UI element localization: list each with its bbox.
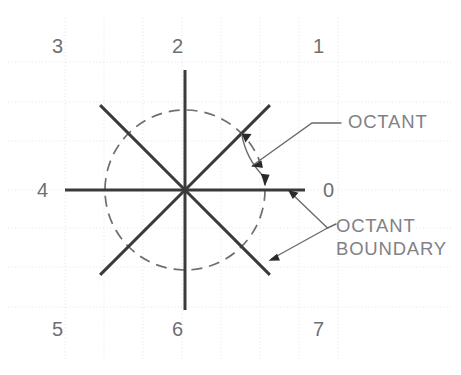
- octant-leader-line: [253, 123, 342, 166]
- octant-label-2: 2: [172, 35, 183, 57]
- octant-arc-arrow-lower: [261, 174, 270, 186]
- octant-diagram-canvas: OCTANT OCTANT BOUNDARY 01234567: [0, 0, 461, 375]
- axis-ray-3: [100, 105, 185, 190]
- octant-label-5: 5: [52, 318, 63, 340]
- grid-horizontal-lines: [8, 62, 452, 307]
- octant-axis-rays: [65, 70, 305, 310]
- octant-boundary-callout-label-line1: OCTANT: [336, 215, 415, 236]
- axis-ray-1: [185, 105, 270, 190]
- octant-label-7: 7: [313, 318, 324, 340]
- octant-label-1: 1: [313, 35, 324, 57]
- octant-label-3: 3: [52, 35, 63, 57]
- axis-ray-7: [185, 190, 270, 275]
- octant-label-0: 0: [323, 179, 334, 201]
- octant-label-4: 4: [37, 179, 48, 201]
- callout-octant-boundary-group: OCTANT BOUNDARY: [269, 190, 447, 261]
- octant-callout-label: OCTANT: [348, 111, 427, 132]
- axis-ray-5: [100, 190, 185, 275]
- octant-boundary-leader-stub: [328, 224, 337, 228]
- octant-boundary-leader-upper: [291, 193, 328, 229]
- callout-octant-group: OCTANT: [242, 111, 428, 186]
- octant-label-6: 6: [172, 318, 183, 340]
- octant-boundary-callout-label-line2: BOUNDARY: [336, 238, 447, 259]
- octant-diagram: OCTANT OCTANT BOUNDARY 01234567: [0, 0, 461, 375]
